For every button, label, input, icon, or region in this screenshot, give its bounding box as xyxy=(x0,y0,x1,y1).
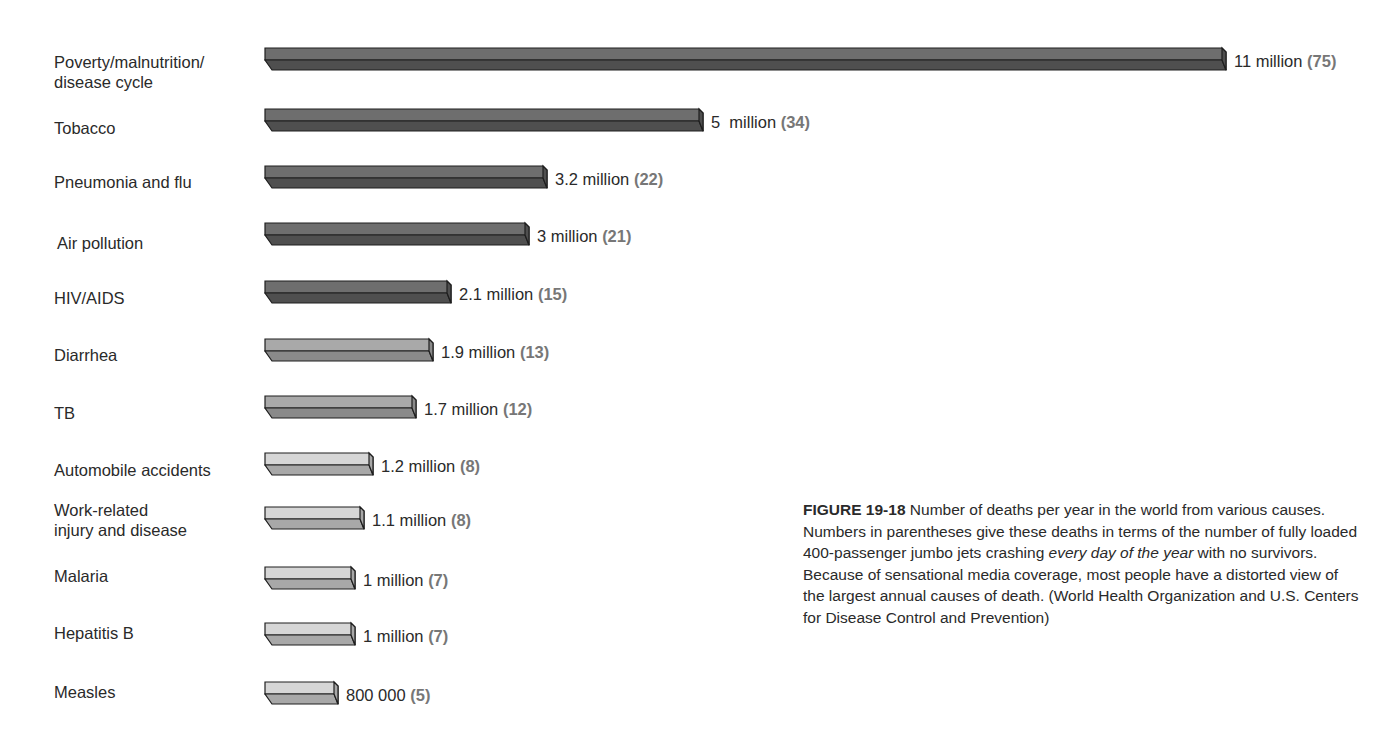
bar xyxy=(264,622,359,648)
value-label: 1.9 million (13) xyxy=(441,342,549,362)
bar xyxy=(264,566,359,592)
jets-value: (22) xyxy=(634,170,663,188)
bar xyxy=(264,47,1230,73)
jets-value: (12) xyxy=(503,400,532,418)
deaths-value: 1.9 million xyxy=(441,343,515,361)
deaths-value: 3.2 million xyxy=(555,170,629,188)
value-label: 11 million (75) xyxy=(1234,51,1336,71)
jets-value: (21) xyxy=(602,227,631,245)
value-label: 3.2 million (22) xyxy=(555,169,663,189)
category-label: Hepatitis B xyxy=(54,623,134,643)
deaths-value: 1.7 million xyxy=(424,400,498,418)
deaths-value: 1.2 million xyxy=(381,457,455,475)
bar xyxy=(264,338,437,364)
jets-value: (13) xyxy=(520,343,549,361)
jets-value: (7) xyxy=(428,571,448,589)
deaths-value: 800 000 xyxy=(346,686,406,704)
category-label: Air pollution xyxy=(57,233,143,253)
value-label: 1.7 million (12) xyxy=(424,399,532,419)
caption-italic: every day of the year xyxy=(1049,544,1194,561)
category-label: HIV/AIDS xyxy=(54,288,125,308)
category-label: Measles xyxy=(54,682,115,702)
deaths-value: 5 million xyxy=(711,113,776,131)
jets-value: (34) xyxy=(781,113,810,131)
jets-value: (15) xyxy=(538,285,567,303)
value-label: 1.2 million (8) xyxy=(381,456,480,476)
bar xyxy=(264,395,420,421)
deaths-value: 1 million xyxy=(363,627,424,645)
jets-value: (7) xyxy=(428,627,448,645)
value-label: 2.1 million (15) xyxy=(459,284,567,304)
figure-label: FIGURE 19-18 xyxy=(803,501,906,518)
bar xyxy=(264,108,707,134)
category-label: TB xyxy=(54,403,75,423)
bar xyxy=(264,280,455,306)
bar xyxy=(264,165,551,191)
deaths-value: 2.1 million xyxy=(459,285,533,303)
bar-row: Measles800 000 (5) xyxy=(0,0,1377,40)
jets-value: (5) xyxy=(410,686,430,704)
category-label: Tobacco xyxy=(54,118,115,138)
bar xyxy=(264,506,368,532)
jets-value: (8) xyxy=(451,511,471,529)
deaths-value: 1 million xyxy=(363,571,424,589)
category-label: Pneumonia and flu xyxy=(54,172,192,192)
bar xyxy=(264,452,377,478)
deaths-value: 1.1 million xyxy=(372,511,446,529)
category-label: Poverty/malnutrition/ disease cycle xyxy=(54,52,204,92)
value-label: 1 million (7) xyxy=(363,570,448,590)
jets-value: (75) xyxy=(1307,52,1336,70)
value-label: 3 million (21) xyxy=(537,226,631,246)
category-label: Diarrhea xyxy=(54,345,117,365)
value-label: 800 000 (5) xyxy=(346,685,430,705)
deaths-value: 3 million xyxy=(537,227,598,245)
bar xyxy=(264,681,342,707)
bar xyxy=(264,222,533,248)
category-label: Automobile accidents xyxy=(54,460,211,480)
jets-value: (8) xyxy=(460,457,480,475)
value-label: 5 million (34) xyxy=(711,112,810,132)
category-label: Work-related injury and disease xyxy=(54,500,187,540)
value-label: 1 million (7) xyxy=(363,626,448,646)
value-label: 1.1 million (8) xyxy=(372,510,471,530)
figure-caption: FIGURE 19-18 Number of deaths per year i… xyxy=(803,499,1363,628)
category-label: Malaria xyxy=(54,566,108,586)
deaths-value: 11 million xyxy=(1234,52,1302,70)
